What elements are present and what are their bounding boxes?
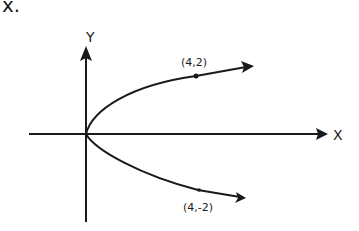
point-4-neg2 <box>197 188 201 192</box>
header-fragment: x. <box>2 0 20 17</box>
y-axis-label: Y <box>85 29 95 45</box>
parabola-diagram: x. X Y (4,2) (4,-2) <box>0 0 359 231</box>
parabola-lower-branch <box>86 134 240 197</box>
parabola-upper-branch <box>86 67 246 134</box>
point-4-2 <box>194 74 199 79</box>
point-label-4-2: (4,2) <box>181 56 207 69</box>
point-label-4-neg2: (4,-2) <box>183 201 213 214</box>
lower-branch-arrow-icon <box>235 192 246 203</box>
x-axis-label: X <box>333 127 343 143</box>
